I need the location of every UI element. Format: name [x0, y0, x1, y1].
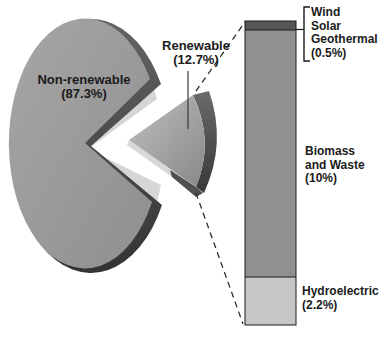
energy-pie-chart-figure: Non-renewable (87.3%) Renewable (12.7%) … [0, 0, 380, 338]
label-biomass-value: (10%) [305, 172, 365, 186]
label-hydroelectric-value: (2.2%) [302, 299, 379, 313]
label-renewable-name: Renewable [162, 39, 230, 53]
bar-segment-biomass [245, 30, 296, 277]
breakdown-bar [245, 21, 296, 325]
label-biomass-and-waste: Biomass and Waste (10%) [305, 145, 365, 186]
label-biomass-line2: and Waste [305, 159, 365, 173]
label-wind: Wind [311, 6, 378, 20]
label-wind-value: (0.5%) [311, 47, 378, 61]
bar-segment-wind-solar-geothermal [245, 21, 296, 30]
label-hydroelectric: Hydroelectric (2.2%) [302, 285, 379, 312]
label-nonrenewable-name: Non-renewable [37, 73, 130, 87]
label-renewable-value: (12.7%) [162, 53, 230, 67]
label-hydroelectric-name: Hydroelectric [302, 285, 379, 299]
label-nonrenewable: Non-renewable (87.3%) [37, 73, 130, 101]
label-solar: Solar [311, 20, 378, 34]
label-renewable: Renewable (12.7%) [162, 39, 230, 67]
bar-segment-hydroelectric [245, 277, 296, 325]
label-wind-solar-geothermal: Wind Solar Geothermal (0.5%) [311, 6, 378, 60]
label-biomass-line1: Biomass [305, 145, 365, 159]
wind-bracket [304, 7, 310, 61]
label-geothermal: Geothermal [311, 33, 378, 47]
dashed-connector-bottom [196, 193, 243, 324]
label-nonrenewable-value: (87.3%) [37, 87, 130, 101]
